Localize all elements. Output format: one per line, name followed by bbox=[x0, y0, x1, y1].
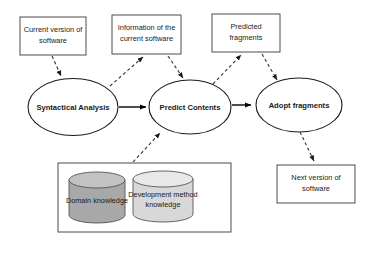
edge-predicted-fragments-to-adopt-fragments bbox=[262, 54, 277, 80]
node-current-version: Current version of software bbox=[20, 17, 86, 55]
node-adopt-fragments: Adopt fragments bbox=[256, 78, 342, 132]
predict-contents-label: Predict Contents bbox=[160, 103, 221, 112]
store-development-method-knowledge: Development method knowledge bbox=[128, 171, 197, 222]
edge-information-to-predict-contents bbox=[168, 56, 183, 78]
store-domain-knowledge: Domain knowledge bbox=[66, 172, 128, 223]
node-syntactical-analysis: Syntactical Analysis bbox=[28, 79, 118, 136]
node-next-version: Next version of software bbox=[277, 165, 355, 203]
development-method-cylinder-top bbox=[133, 171, 193, 187]
edge-adopt-fragments-to-next-version bbox=[300, 132, 314, 161]
next-version-label-line1: Next version of bbox=[291, 173, 341, 182]
current-version-label-line1: Current version of bbox=[24, 25, 84, 34]
domain-knowledge-cylinder-top bbox=[69, 172, 125, 188]
next-version-label-line2: software bbox=[302, 184, 330, 193]
information-current-label-line1: Information of the bbox=[118, 23, 176, 32]
development-method-label-line1: Development method bbox=[128, 190, 197, 199]
domain-knowledge-label-line1: Domain knowledge bbox=[66, 196, 128, 205]
process-flow-diagram: Current version of software Information … bbox=[0, 0, 375, 253]
edge-current-version-to-syntactical-analysis bbox=[52, 56, 61, 76]
knowledge-base-container: Domain knowledge Development method know… bbox=[58, 163, 231, 232]
predicted-fragments-label-line1: Predicted bbox=[230, 22, 261, 31]
node-predicted-fragments: Predicted fragments bbox=[212, 14, 280, 52]
current-version-label-line2: software bbox=[39, 36, 67, 45]
development-method-label-line2: knowledge bbox=[146, 200, 181, 209]
node-predict-contents: Predict Contents bbox=[149, 80, 231, 134]
syntactical-analysis-label: Syntactical Analysis bbox=[36, 103, 109, 112]
adopt-fragments-label: Adopt fragments bbox=[269, 101, 330, 110]
edge-predict-contents-to-predicted-fragments bbox=[213, 55, 241, 84]
edge-knowledge-base-to-predict-contents bbox=[133, 133, 160, 162]
information-current-label-line2: current software bbox=[120, 34, 173, 43]
edge-syntactical-analysis-to-information bbox=[110, 57, 143, 86]
node-information-current-software: Information of the current software bbox=[112, 15, 181, 54]
predicted-fragments-label-line2: fragments bbox=[230, 33, 263, 42]
diagram-canvas: Current version of software Information … bbox=[0, 0, 375, 253]
